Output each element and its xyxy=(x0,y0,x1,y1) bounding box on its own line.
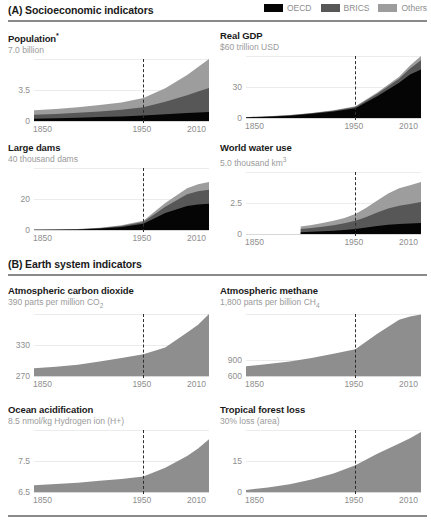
plot-canvas xyxy=(34,59,209,121)
panel-title-text: Population xyxy=(8,33,56,44)
section-earth-system: (B) Earth system indicators xyxy=(0,258,431,278)
x-axis-tick-label: 1850 xyxy=(245,238,264,247)
year-marker-1950 xyxy=(355,314,356,378)
x-axis-tick-label: 1950 xyxy=(132,234,151,243)
x-axis-tick-label: 1950 xyxy=(132,496,151,505)
panel-atmospheric-methane: Atmospheric methane 1,800 parts per bill… xyxy=(220,285,423,394)
legend-swatch-oecd xyxy=(264,4,283,12)
panel-subtitle: 30% loss (area) xyxy=(220,416,423,427)
y-axis-tick-label: 0 xyxy=(8,117,30,125)
year-marker-1950 xyxy=(355,172,356,236)
series-area-group xyxy=(34,430,209,492)
panel-title: Atmospheric methane xyxy=(220,285,423,296)
panel-tropical-forest-loss: Tropical forest loss 30% loss (area) 015… xyxy=(220,404,423,510)
x-axis-line xyxy=(246,118,421,119)
x-axis-line xyxy=(34,492,209,493)
series-area xyxy=(34,314,209,376)
y-axis-tick-label: 2.5 xyxy=(220,199,242,207)
plot-area: 600900185019502010 xyxy=(220,314,423,394)
year-marker-1950 xyxy=(355,430,356,494)
y-axis-tick-label: 7.5 xyxy=(8,457,30,465)
panel-title: Real GDP xyxy=(220,30,423,41)
panel-subtitle: 40 thousand dams xyxy=(8,154,211,165)
panel-title: Population* xyxy=(8,30,211,44)
y-axis-tick-label: 0 xyxy=(220,230,242,238)
panel-real-gdp: Real GDP $60 trillion USD 03018501950201… xyxy=(220,30,423,136)
x-axis-tick-label: 1850 xyxy=(245,122,264,131)
x-axis-tick-label: 1950 xyxy=(344,238,363,247)
x-axis-tick-label: 1850 xyxy=(33,234,52,243)
plot-canvas xyxy=(246,430,421,492)
x-axis-tick-label: 1850 xyxy=(33,125,52,134)
legend-swatch-others xyxy=(378,4,397,12)
series-area-group xyxy=(246,56,421,118)
panel-subtitle: 1,800 parts per billion CH4 xyxy=(220,297,423,311)
year-marker-1950 xyxy=(143,168,144,232)
panel-atmospheric-carbon-dioxide: Atmospheric carbon dioxide 390 parts per… xyxy=(8,285,211,394)
plot-area: 270330185019502010 xyxy=(8,314,211,394)
x-axis-tick-label: 1950 xyxy=(132,380,151,389)
x-axis-tick-label: 2010 xyxy=(187,125,206,134)
legend-item-oecd: OECD xyxy=(264,3,312,13)
legend-swatch-brics xyxy=(321,4,340,12)
panel-ocean-acidification: Ocean acidification 8.5 nmol/kg Hydrogen… xyxy=(8,404,211,510)
section-a-rule xyxy=(8,20,427,22)
plot-canvas xyxy=(246,314,421,376)
section-b-header: (B) Earth system indicators xyxy=(0,258,431,278)
y-axis-tick-label: 900 xyxy=(220,356,242,364)
section-a-header: (A) Socioeconomic indicators OECD BRICS … xyxy=(0,4,431,24)
x-axis-tick-label: 1950 xyxy=(344,122,363,131)
legend-item-brics: BRICS xyxy=(321,3,370,13)
x-axis-line xyxy=(246,376,421,377)
panel-subtitle-exponent: 3 xyxy=(283,156,287,163)
panel-subtitle: 7.0 billion xyxy=(8,45,211,56)
panel-subtitle-text: 1,800 parts per billion CH xyxy=(220,297,316,307)
legend-item-others: Others xyxy=(378,3,427,13)
year-marker-1950 xyxy=(143,314,144,378)
plot-area: 030185019502010 xyxy=(220,56,423,136)
series-area-group xyxy=(34,314,209,376)
y-axis-tick-label: 270 xyxy=(8,372,30,380)
figure-bottom-rule xyxy=(8,515,427,517)
y-axis-tick-label: 0 xyxy=(8,226,30,234)
x-axis-tick-label: 2010 xyxy=(187,496,206,505)
y-axis-tick-label: 0 xyxy=(220,114,242,122)
panel-subtitle: 5.0 thousand km3 xyxy=(220,154,423,169)
plot-area: 6.57.5185019502010 xyxy=(8,430,211,510)
series-area xyxy=(246,314,421,375)
section-socioeconomic: (A) Socioeconomic indicators OECD BRICS … xyxy=(0,4,431,24)
x-axis-tick-label: 2010 xyxy=(399,238,418,247)
panel-subtitle-text: 5.0 thousand km xyxy=(220,158,283,168)
y-axis-tick-label: 330 xyxy=(8,341,30,349)
y-axis-tick-label: 20 xyxy=(8,195,30,203)
plot-area: 02.5185019502010 xyxy=(220,172,423,252)
anthropocene-dashboard-figure: (A) Socioeconomic indicators OECD BRICS … xyxy=(0,0,431,522)
series-area xyxy=(34,439,209,492)
panel-subtitle-subscript: 4 xyxy=(316,302,320,309)
panel-title: Tropical forest loss xyxy=(220,404,423,415)
panel-subtitle: 8.5 nmol/kg Hydrogen ion (H+) xyxy=(8,416,211,427)
panel-title: Atmospheric carbon dioxide xyxy=(8,285,211,296)
y-axis-tick-label: 3.5 xyxy=(8,86,30,94)
y-axis-tick-label: 6.5 xyxy=(8,488,30,496)
year-marker-1950 xyxy=(355,56,356,120)
series-area-group xyxy=(246,314,421,376)
y-axis-tick-label: 0 xyxy=(220,488,242,496)
x-axis-tick-label: 2010 xyxy=(399,496,418,505)
plot-canvas xyxy=(246,172,421,234)
legend-label-others: Others xyxy=(401,3,427,13)
x-axis-tick-label: 1950 xyxy=(344,380,363,389)
plot-canvas xyxy=(34,430,209,492)
x-axis-line xyxy=(246,234,421,235)
x-axis-line xyxy=(34,376,209,377)
legend-label-brics: BRICS xyxy=(344,3,370,13)
series-area-group xyxy=(246,430,421,492)
section-b-title: (B) Earth system indicators xyxy=(8,258,142,270)
x-axis-tick-label: 1850 xyxy=(245,496,264,505)
legend-label-oecd: OECD xyxy=(287,3,312,13)
x-axis-tick-label: 2010 xyxy=(399,122,418,131)
series-area-group xyxy=(34,168,209,230)
plot-area: 020185019502010 xyxy=(8,168,211,248)
x-axis-tick-label: 2010 xyxy=(187,380,206,389)
x-axis-tick-label: 2010 xyxy=(187,234,206,243)
